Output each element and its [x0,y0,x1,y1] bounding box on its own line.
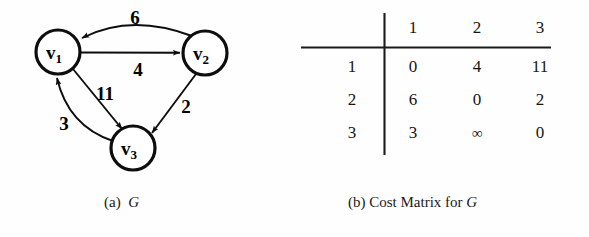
matrix-col-header-2: 2 [473,19,482,36]
matrix-cell-r3c1: 3 [409,124,418,141]
graph-panel: v1 v2 v3 6 4 11 2 3 (a) G [0,0,295,237]
figure-root: v1 v2 v3 6 4 11 2 3 (a) G 1 2 3 [0,0,589,237]
caption-b-prefix: (b) [348,194,366,210]
caption-b-graph-name: G [466,194,477,210]
matrix-row-header-3: 3 [348,124,357,141]
node-subscript-v1: 1 [56,51,63,66]
caption-panel-b: (b) Cost Matrix for G [348,195,477,210]
node-label-v1: v1 [46,43,62,65]
node-name-v3: v [121,138,131,159]
edge-weight-v2-v3: 2 [178,97,194,116]
edge-weight-v3-v1: 3 [56,114,72,133]
cost-matrix-panel: 1 2 3 1 0 4 11 2 6 0 2 3 3 ∞ 0 (b) Cost … [295,0,589,237]
edge-weight-v2-v1: 6 [127,8,143,27]
edge-weight-v1-v3: 11 [95,84,115,103]
caption-a-prefix: (a) [104,194,121,210]
node-name-v2: v [193,43,203,64]
matrix-col-header-3: 3 [536,19,545,36]
matrix-cell-r1c3: 11 [532,58,548,75]
node-label-v3: v3 [121,139,137,161]
matrix-col-header-1: 1 [409,19,418,36]
caption-a-graph-name: G [128,194,139,210]
matrix-cell-r3c3: 0 [536,124,545,141]
matrix-cell-r2c1: 6 [409,91,418,108]
node-subscript-v2: 2 [203,52,210,67]
matrix-cell-r3c2-infinity: ∞ [472,126,482,141]
caption-b-text: Cost Matrix for [369,194,462,210]
matrix-cell-r1c2: 4 [473,58,482,75]
matrix-row-header-2: 2 [348,91,357,108]
matrix-cell-r2c2: 0 [473,91,482,108]
matrix-cell-r1c1: 0 [409,58,418,75]
matrix-cell-r2c3: 2 [536,91,545,108]
graph-drawing [0,0,295,237]
node-subscript-v3: 3 [131,147,138,162]
node-label-v2: v2 [193,44,209,66]
matrix-row-header-1: 1 [348,58,357,75]
caption-panel-a: (a) G [104,195,139,210]
edge-weight-v1-v2: 4 [130,60,146,79]
node-name-v1: v [46,42,56,63]
